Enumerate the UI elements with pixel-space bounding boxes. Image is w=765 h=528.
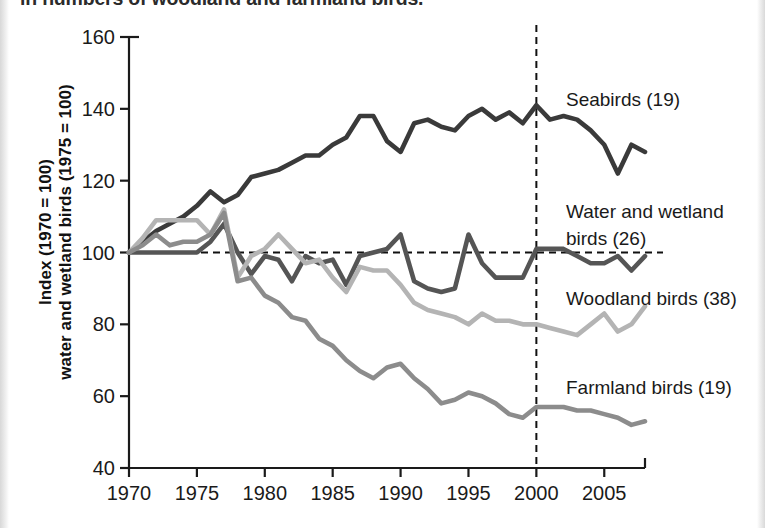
x-tick-label: 1980: [243, 482, 288, 504]
figure-page: in numbers of woodland and farmland bird…: [0, 0, 765, 528]
x-tick-label: 1990: [378, 482, 423, 504]
series-label-woodland-label: Woodland birds (38): [566, 288, 737, 309]
series-label-water-label-line1: Water and wetland: [566, 201, 724, 222]
x-tick-label: 1985: [310, 482, 355, 504]
y-tick-label: 100: [82, 242, 115, 264]
line-chart: 4060801001201401601970197519801985199019…: [0, 0, 765, 528]
x-tick-label: 2005: [582, 482, 627, 504]
y-tick-label: 80: [93, 313, 115, 335]
series-label-water-label-line2: birds (26): [566, 228, 646, 249]
y-tick-label: 140: [82, 98, 115, 120]
x-tick-label: 1970: [107, 482, 152, 504]
x-tick-label: 2000: [514, 482, 559, 504]
y-tick-label: 120: [82, 170, 115, 192]
y-tick-label: 40: [93, 457, 115, 479]
x-tick-label: 1995: [446, 482, 491, 504]
y-tick-label: 160: [82, 26, 115, 48]
x-tick-label: 1975: [175, 482, 220, 504]
series-label-seabirds-label: Seabirds (19): [566, 89, 680, 110]
series-label-farmland-label: Farmland birds (19): [566, 377, 732, 398]
y-tick-label: 60: [93, 385, 115, 407]
